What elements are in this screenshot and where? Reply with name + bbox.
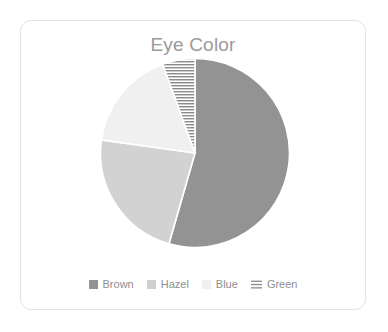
- legend-label-blue: Blue: [216, 278, 238, 290]
- legend-item-hazel[interactable]: Hazel: [147, 278, 189, 290]
- legend-label-brown: Brown: [103, 278, 134, 290]
- legend-item-blue[interactable]: Blue: [202, 278, 238, 290]
- legend-item-green[interactable]: Green: [251, 278, 298, 290]
- chart-legend: Brown Hazel Blue Green: [21, 278, 365, 290]
- legend-label-hazel: Hazel: [161, 278, 189, 290]
- hatch-swatch-icon: [251, 280, 262, 289]
- chart-card: Eye Color Brown: [20, 20, 366, 310]
- legend-label-green: Green: [267, 278, 298, 290]
- pie-chart-svg: [100, 58, 290, 248]
- pie-chart[interactable]: [100, 58, 290, 248]
- legend-item-brown[interactable]: Brown: [89, 278, 134, 290]
- square-swatch-icon: [147, 280, 156, 289]
- chart-title: Eye Color: [21, 33, 365, 57]
- square-swatch-icon: [89, 280, 98, 289]
- square-swatch-icon: [202, 280, 211, 289]
